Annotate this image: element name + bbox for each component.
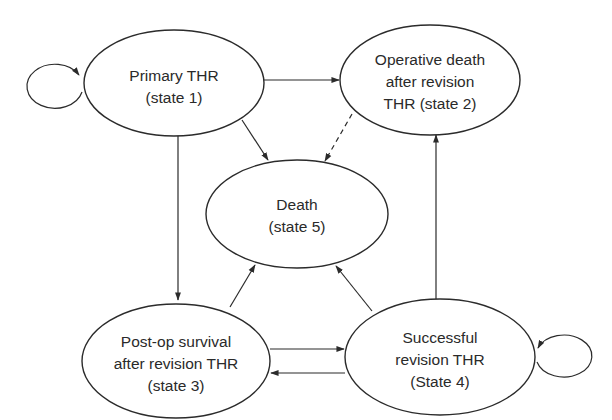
edge-state3-to-state5: [230, 265, 255, 307]
state5-ellipse: [206, 160, 388, 268]
state1-label-line2: (state 1): [146, 89, 203, 106]
node-state4: Successful revision THR (State 4): [345, 299, 535, 415]
state4-label-line1: Successful: [403, 329, 478, 346]
node-state3: Post-op survival after revision THR (sta…: [82, 304, 270, 418]
edge-state4-self-loop: [537, 335, 592, 377]
node-state5: Death (state 5): [206, 160, 388, 268]
state2-label-line3: THR (state 2): [383, 95, 476, 112]
edge-state1-to-state5: [242, 120, 268, 160]
edge-state1-self-loop: [27, 64, 82, 108]
markov-state-diagram: Primary THR (state 1) Operative death af…: [0, 0, 612, 420]
state3-label-line1: Post-op survival: [121, 333, 231, 350]
state5-label-line1: Death: [276, 196, 317, 213]
state2-label-line2: after revision: [386, 73, 475, 90]
state4-label-line3: (State 4): [410, 373, 469, 390]
edge-state2-to-state5: [325, 114, 352, 161]
state1-label-line1: Primary THR: [129, 67, 218, 84]
state3-label-line2: after revision THR: [114, 355, 239, 372]
node-state1: Primary THR (state 1): [84, 30, 264, 136]
node-state2: Operative death after revision THR (stat…: [340, 25, 520, 135]
state2-label-line1: Operative death: [375, 51, 485, 68]
state3-label-line3: (state 3): [148, 377, 205, 394]
edge-state4-to-state5: [336, 266, 372, 311]
state5-label-line2: (state 5): [269, 218, 326, 235]
state4-label-line2: revision THR: [395, 351, 484, 368]
